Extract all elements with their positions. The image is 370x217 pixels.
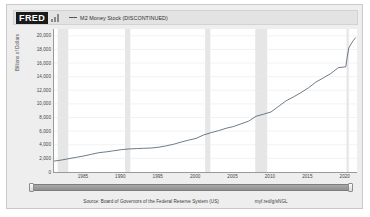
recession-band-2 — [205, 29, 210, 172]
recession-bands — [58, 29, 349, 172]
y-tick-14000: 14,000 — [37, 74, 51, 79]
y-tick-6000: 6,000 — [39, 129, 51, 134]
line-chart-svg — [54, 29, 357, 172]
y-axis-tick-labels: 02,0004,0006,0008,00010,00012,00014,0001… — [13, 27, 51, 172]
fred-chart-widget: FRED M2 Money Stock (DISCONTINUED) Billi… — [6, 4, 363, 209]
y-tick-16000: 16,000 — [37, 61, 51, 66]
plot-canvas[interactable] — [53, 29, 357, 173]
slider-selected-range[interactable] — [33, 184, 349, 191]
chart-footer: Source: Board of Governors of the Federa… — [13, 196, 358, 206]
chart-legend[interactable]: M2 Money Stock (DISCONTINUED) — [69, 15, 168, 21]
legend-label: M2 Money Stock (DISCONTINUED) — [80, 15, 168, 21]
permalink-url[interactable]: myf.red/g/sNGL — [255, 199, 288, 204]
x-tick-1985: 1985 — [78, 174, 88, 179]
slider-handle-left[interactable] — [29, 183, 34, 192]
y-tick-4000: 4,000 — [39, 142, 51, 147]
y-tick-0: 0 — [48, 170, 51, 175]
x-tick-1995: 1995 — [153, 174, 163, 179]
recession-band-0 — [58, 29, 68, 172]
y-tick-8000: 8,000 — [39, 115, 51, 120]
legend-line-swatch — [69, 17, 77, 18]
source-attribution: Source: Board of Governors of the Federa… — [83, 199, 219, 204]
slider-handle-right[interactable] — [348, 183, 353, 192]
chart-area: Billions of Dollars 02,0004,0006,0008,00… — [13, 27, 358, 177]
recession-band-3 — [255, 29, 267, 172]
x-tick-2015: 2015 — [302, 174, 312, 179]
chart-header-bar: FRED M2 Money Stock (DISCONTINUED) — [13, 10, 358, 25]
y-tick-2000: 2,000 — [39, 156, 51, 161]
x-tick-2010: 2010 — [265, 174, 275, 179]
x-tick-2000: 2000 — [190, 174, 200, 179]
recession-band-1 — [125, 29, 130, 172]
x-tick-1990: 1990 — [115, 174, 125, 179]
y-tick-18000: 18,000 — [37, 47, 51, 52]
bar-chart-icon — [51, 13, 60, 22]
y-tick-12000: 12,000 — [37, 88, 51, 93]
fred-logo: FRED — [16, 12, 48, 24]
series-line-m2 — [54, 38, 356, 161]
date-range-slider[interactable] — [29, 183, 353, 192]
x-tick-2005: 2005 — [227, 174, 237, 179]
y-tick-10000: 10,000 — [37, 101, 51, 106]
y-tick-20000: 20,000 — [37, 33, 51, 38]
x-tick-2020: 2020 — [340, 174, 350, 179]
